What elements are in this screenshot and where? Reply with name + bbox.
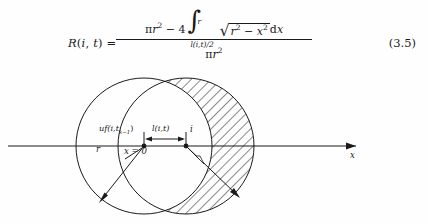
integral-lower-limit: l(i,t)/2 <box>190 31 213 58</box>
equation-number: (3.5) <box>389 36 416 50</box>
minus-operator: − <box>166 23 175 36</box>
diagram-canvas <box>0 62 428 224</box>
exponent-two: 2 <box>157 21 162 30</box>
hatched-lune-region <box>0 62 428 224</box>
equation-left-hand-side: R(i, t) = <box>68 36 116 50</box>
integral-group: ∫rl(i,t)/2 <box>185 16 219 43</box>
radicand: r2 − x2 <box>229 23 270 38</box>
label-segment-length: l(i,t) <box>152 123 170 133</box>
label-radius: r <box>96 144 100 154</box>
differential-dx: dx <box>270 23 283 36</box>
label-x-axis: x <box>350 150 355 160</box>
figure-page: R(i, t) = πr2 − 4∫rl(i,t)/2√r2 − x2dx πr… <box>0 0 428 224</box>
coefficient-four: 4 <box>178 23 185 36</box>
label-uf-point: uf(i,tk−1) <box>99 123 133 135</box>
label-point-i: i <box>190 124 193 134</box>
circle-overlap-diagram: uf(i,tk−1) l(i,t) i x = 0 r x <box>0 62 428 224</box>
label-origin: x = 0 <box>124 146 147 156</box>
square-root-group: √r2 − x2 <box>219 14 269 45</box>
equation-fraction: πr2 − 4∫rl(i,t)/2√r2 − x2dx πr2 <box>116 12 312 59</box>
equation-3-5: R(i, t) = πr2 − 4∫rl(i,t)/2√r2 − x2dx πr… <box>0 4 428 62</box>
equation-numerator: πr2 − 4∫rl(i,t)/2√r2 − x2dx <box>116 12 312 39</box>
